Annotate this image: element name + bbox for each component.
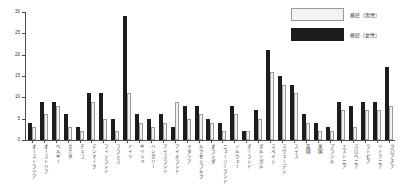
bar-group: [133, 12, 145, 140]
bar-male: [127, 93, 131, 140]
bar-male: [56, 106, 60, 140]
x-tick-mark: [341, 140, 342, 143]
x-tick-mark: [330, 140, 331, 143]
x-tick-label: デンマーク: [87, 144, 96, 169]
x-tick-mark: [115, 140, 116, 143]
bar-male: [163, 123, 167, 140]
bar-male: [32, 127, 36, 140]
bar-male: [80, 131, 84, 140]
x-tick-mark: [151, 140, 152, 143]
bar-group: [157, 12, 169, 140]
bar-male: [341, 110, 345, 140]
x-tick-mark: [32, 140, 33, 143]
x-tick-label: アイルランド: [170, 144, 179, 174]
bar-male: [103, 119, 107, 140]
x-tick-label: オランダ: [206, 144, 215, 164]
legend-item-female[interactable]: 移民（女性）: [291, 28, 380, 41]
bar-group: [121, 12, 133, 140]
x-tick-label: ポルトガル: [254, 144, 263, 169]
bar-chart: 051015202530 オーストラリアオーストリアベルギーカナダチェコデンマー…: [0, 0, 401, 191]
x-tick-label: ギリシャ: [135, 144, 144, 164]
y-tick-label: 5: [17, 116, 20, 121]
x-tick-label: ポーランド: [242, 144, 251, 169]
x-tick-mark: [377, 140, 378, 143]
bar-group: [181, 12, 193, 140]
x-tick-mark: [175, 140, 176, 143]
bar-male: [199, 114, 203, 140]
x-tick-mark: [56, 140, 57, 143]
bar-male: [306, 123, 310, 140]
bar-group: [50, 12, 62, 140]
bar-male: [246, 131, 250, 140]
bar-group: [276, 12, 288, 140]
x-tick-mark: [80, 140, 81, 143]
y-tick-label: 30: [15, 10, 20, 15]
x-tick-mark: [139, 140, 140, 143]
y-tick-label: 0: [17, 138, 20, 143]
bar-group: [62, 12, 74, 140]
legend-label-male: 移民（男性）: [350, 12, 380, 18]
x-tick-label: ノルウェー: [230, 144, 239, 169]
bar-male: [139, 123, 143, 140]
x-tick-label: 英国: [301, 144, 310, 154]
x-tick-mark: [234, 140, 235, 143]
x-tick-label: スペイン: [266, 144, 275, 164]
x-tick-mark: [258, 140, 259, 143]
light-swatch-icon: [291, 8, 344, 21]
x-tick-mark: [306, 140, 307, 143]
bar-group: [74, 12, 86, 140]
x-tick-mark: [68, 140, 69, 143]
x-tick-label: オーストリア: [39, 144, 48, 174]
bar-male: [151, 127, 155, 140]
bar-male: [294, 93, 298, 140]
y-tick-label: 20: [15, 52, 20, 57]
bar-male: [234, 114, 238, 140]
y-axis-ticks: 051015202530: [0, 12, 25, 141]
bar-male: [330, 131, 334, 140]
bar-group: [169, 12, 181, 140]
x-tick-mark: [282, 140, 283, 143]
x-tick-mark: [187, 140, 188, 143]
x-tick-mark: [353, 140, 354, 143]
x-tick-label: 米国: [313, 144, 322, 154]
x-tick-label: スイス: [289, 144, 298, 159]
bar-group: [264, 12, 276, 140]
bar-group: [109, 12, 121, 140]
bar-group: [240, 12, 252, 140]
bar-male: [318, 131, 322, 140]
bar-group: [252, 12, 264, 140]
x-tick-label: リトアニア: [373, 144, 382, 169]
x-tick-label: フランス: [111, 144, 120, 164]
bar-male: [91, 102, 95, 140]
bar-male: [68, 127, 72, 140]
x-tick-mark: [389, 140, 390, 143]
x-tick-mark: [44, 140, 45, 143]
x-tick-label: チェコ: [75, 144, 84, 159]
x-tick-mark: [294, 140, 295, 143]
x-tick-mark: [222, 140, 223, 143]
x-tick-label: スウェーデン: [277, 144, 286, 174]
x-tick-label: ニュージーランド: [218, 144, 227, 184]
x-tick-mark: [163, 140, 164, 143]
x-tick-label: カナダ: [63, 144, 72, 159]
bar-male: [270, 72, 274, 140]
y-tick-label: 10: [15, 95, 20, 100]
x-tick-mark: [91, 140, 92, 143]
x-tick-label: ハンガリー: [146, 144, 155, 169]
bar-male: [353, 127, 357, 140]
bar-male: [175, 102, 179, 140]
y-tick-label: 15: [15, 74, 20, 79]
legend-item-male[interactable]: 移民（男性）: [291, 8, 380, 21]
y-tick-label: 25: [15, 31, 20, 36]
x-tick-mark: [199, 140, 200, 143]
dark-swatch-icon: [291, 28, 344, 41]
x-tick-label: オーストラリア: [27, 144, 36, 179]
bar-group: [26, 12, 38, 140]
x-tick-mark: [318, 140, 319, 143]
bar-group: [145, 12, 157, 140]
x-tick-label: エストニア: [337, 144, 346, 169]
x-tick-label: フィンランド: [99, 144, 108, 174]
bar-group: [86, 12, 98, 140]
bar-group: [205, 12, 217, 140]
bar-male: [222, 131, 226, 140]
